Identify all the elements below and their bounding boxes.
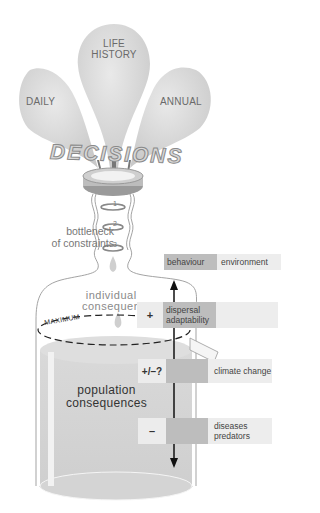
factor-bar xyxy=(166,418,208,444)
life-label: LIFE xyxy=(90,38,138,49)
decisions-label: DECISIONS xyxy=(50,140,184,169)
balloon-label-annual: ANNUAL xyxy=(160,96,202,107)
factor-label: diseases predators xyxy=(208,418,272,444)
behaviour-label: behaviour xyxy=(164,254,217,270)
factor-line1: dispersal xyxy=(166,305,200,315)
factor-sign: +/–? xyxy=(138,359,166,383)
factor-bar xyxy=(166,359,208,383)
balloon-label-life-history: LIFE HISTORY xyxy=(90,38,138,60)
environment-label: environment xyxy=(217,254,281,270)
bottleneck-label: bottleneck of constraints xyxy=(22,225,114,249)
factor-sign: – xyxy=(138,418,166,444)
behaviour-environment-row: behaviour environment xyxy=(164,254,281,270)
bottleneck-line2: of constraints xyxy=(22,237,114,249)
factor-sign: + xyxy=(137,302,163,328)
factor-line2: adaptability xyxy=(166,315,209,325)
factor-label: climate change xyxy=(208,359,272,383)
factor-line2: predators xyxy=(214,431,250,441)
factor-row-climate: +/–? climate change xyxy=(138,359,272,383)
population-line2: consequences xyxy=(66,397,147,410)
population-consequences-label: population consequences xyxy=(66,384,147,410)
factor-label: dispersal adaptability xyxy=(163,302,216,328)
individual-line2: consequen xyxy=(82,301,140,312)
factor-line1: diseases xyxy=(214,421,248,431)
factor-row-diseases: – diseases predators xyxy=(138,418,272,444)
ring-1-label: 1 xyxy=(113,200,117,207)
factor-filler xyxy=(216,302,278,328)
individual-consequences-label: individual consequen xyxy=(82,290,140,312)
history-label: HISTORY xyxy=(90,49,138,60)
balloon-label-daily: DAILY xyxy=(26,96,55,107)
bottleneck-line1: bottleneck xyxy=(22,225,114,237)
funnel-cap xyxy=(83,168,143,196)
factor-row-dispersal: + dispersal adaptability xyxy=(137,302,278,328)
